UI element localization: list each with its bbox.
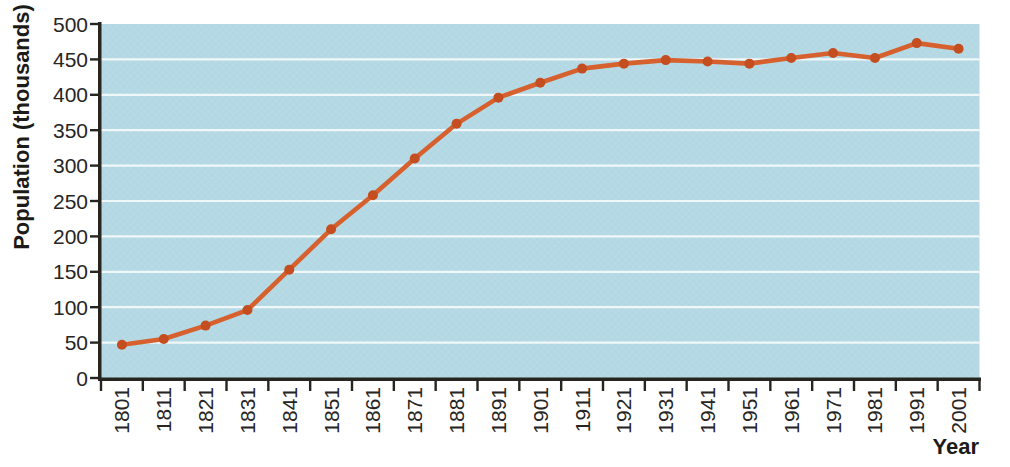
x-tick-label: 1961 bbox=[780, 387, 803, 434]
data-point-1821 bbox=[201, 321, 211, 331]
x-tick-label: 1941 bbox=[696, 387, 719, 434]
x-tick-label: 1981 bbox=[863, 387, 886, 434]
data-point-1941 bbox=[703, 57, 713, 67]
x-tick-label: 1811 bbox=[152, 387, 175, 432]
y-tick-label: 250 bbox=[53, 190, 88, 213]
x-tick-label: 1891 bbox=[487, 387, 510, 434]
y-tick-label: 400 bbox=[53, 83, 88, 106]
x-tick-label: 1871 bbox=[403, 387, 426, 434]
x-tick-label: 1971 bbox=[822, 387, 845, 434]
data-point-1911 bbox=[577, 64, 587, 74]
y-tick-label: 200 bbox=[53, 225, 88, 248]
x-tick-label: 1931 bbox=[654, 387, 677, 434]
data-point-1991 bbox=[912, 38, 922, 48]
x-tick-label: 1801 bbox=[110, 387, 133, 434]
x-tick-label: 1861 bbox=[361, 387, 384, 434]
y-tick-label: 450 bbox=[53, 48, 88, 71]
x-tick-label: 1881 bbox=[445, 387, 468, 434]
plot-area: 0501001502002503003504004505001801181118… bbox=[53, 13, 981, 434]
data-point-1871 bbox=[410, 154, 420, 164]
x-tick-label: 1901 bbox=[529, 387, 552, 434]
y-tick-label: 150 bbox=[53, 260, 88, 283]
data-point-1881 bbox=[452, 119, 462, 129]
data-point-2001 bbox=[954, 44, 964, 54]
x-tick-label: 1911 bbox=[571, 387, 594, 432]
data-point-1921 bbox=[619, 59, 629, 69]
data-point-1961 bbox=[786, 53, 796, 63]
data-point-1841 bbox=[284, 265, 294, 275]
y-axis-title: Population (thousands) bbox=[9, 4, 34, 250]
x-tick-label: 1831 bbox=[236, 387, 259, 434]
y-tick-label: 300 bbox=[53, 154, 88, 177]
data-point-1901 bbox=[535, 78, 545, 88]
x-tick-label: 1991 bbox=[905, 387, 928, 434]
data-point-1801 bbox=[117, 340, 127, 350]
data-point-1981 bbox=[870, 53, 880, 63]
population-line-chart: 0501001502002503003504004505001801181118… bbox=[0, 0, 1010, 467]
data-point-1851 bbox=[326, 224, 336, 234]
data-point-1931 bbox=[661, 55, 671, 65]
y-tick-label: 100 bbox=[53, 296, 88, 319]
scanned-textbook-chart-page: 0501001502002503003504004505001801181118… bbox=[0, 0, 1010, 467]
data-point-1861 bbox=[368, 190, 378, 200]
y-tick-label: 500 bbox=[53, 13, 88, 36]
x-tick-label: 1851 bbox=[320, 387, 343, 434]
data-point-1971 bbox=[828, 48, 838, 58]
data-point-1951 bbox=[744, 59, 754, 69]
x-tick-label: 1921 bbox=[612, 387, 635, 434]
y-tick-label: 50 bbox=[65, 331, 88, 354]
data-point-1831 bbox=[242, 305, 252, 315]
y-tick-label: 350 bbox=[53, 119, 88, 142]
y-tick-label: 0 bbox=[76, 367, 88, 390]
x-tick-label: 1841 bbox=[278, 387, 301, 434]
data-point-1891 bbox=[493, 93, 503, 103]
x-tick-label: 1821 bbox=[194, 387, 217, 434]
x-axis-title: Year bbox=[933, 434, 980, 459]
data-point-1811 bbox=[159, 334, 169, 344]
x-tick-label: 2001 bbox=[947, 387, 970, 434]
x-tick-label: 1951 bbox=[738, 387, 761, 434]
